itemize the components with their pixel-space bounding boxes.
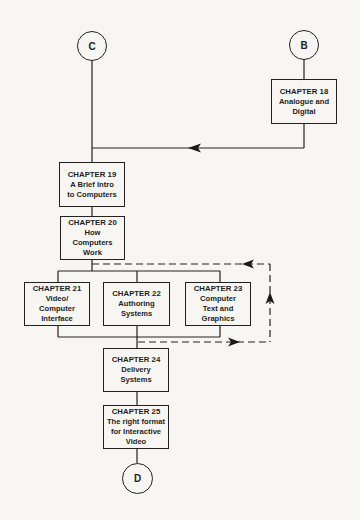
chapter-line: Video/ — [46, 294, 69, 304]
chapter-line: Video — [126, 437, 147, 447]
chapter-title: CHAPTER 19 — [68, 170, 117, 180]
chapter-line: How — [84, 228, 100, 238]
chapter-line: to Computers — [67, 190, 116, 200]
chapter-title: CHAPTER 22 — [112, 289, 161, 299]
chapter-line: Work — [83, 248, 102, 258]
chapter-line: Delivery — [121, 365, 151, 375]
flow-lines — [0, 0, 360, 520]
chapter-line: Computer — [200, 294, 236, 304]
chapter-line: Systems — [121, 309, 152, 319]
connector-c-label: C — [88, 41, 95, 52]
chapter-title: CHAPTER 24 — [112, 355, 161, 365]
chapter-line: Analogue and — [279, 97, 329, 107]
chapter-line: Computers — [72, 238, 112, 248]
connector-d-label: D — [134, 473, 141, 484]
chapter-19-box: CHAPTER 19 A Brief Intro to Computers — [59, 162, 125, 207]
chapter-line: Interface — [41, 314, 73, 324]
chapter-line: Computer — [39, 304, 75, 314]
chapter-title: CHAPTER 18 — [280, 87, 329, 97]
chapter-title: CHAPTER 25 — [112, 407, 161, 417]
chapter-21-box: CHAPTER 21 Video/ Computer Interface — [24, 282, 90, 326]
connector-c: C — [77, 31, 107, 61]
chapter-23-box: CHAPTER 23 Computer Text and Graphics — [185, 282, 251, 326]
chapter-25-box: CHAPTER 25 The right format for Interact… — [103, 405, 169, 449]
connector-d: D — [122, 463, 153, 494]
chapter-title: CHAPTER 21 — [33, 284, 82, 294]
chapter-line: A Brief Intro — [70, 180, 114, 190]
connector-b-label: B — [300, 40, 307, 51]
chapter-18-box: CHAPTER 18 Analogue and Digital — [271, 79, 337, 124]
connector-b: B — [289, 30, 319, 60]
chapter-line: Graphics — [202, 314, 235, 324]
chapter-22-box: CHAPTER 22 Authoring Systems — [103, 282, 170, 326]
chapter-line: Digital — [292, 107, 315, 117]
chapter-line: Authoring — [118, 299, 154, 309]
chapter-24-box: CHAPTER 24 Delivery Systems — [103, 348, 169, 392]
chapter-line: for Interactive — [111, 427, 161, 437]
chapter-title: CHAPTER 20 — [68, 218, 117, 228]
chapter-title: CHAPTER 23 — [194, 284, 243, 294]
chapter-line: Text and — [203, 304, 234, 314]
chapter-20-box: CHAPTER 20 How Computers Work — [60, 216, 125, 260]
chapter-line: Systems — [120, 375, 151, 385]
chapter-line: The right format — [107, 417, 165, 427]
